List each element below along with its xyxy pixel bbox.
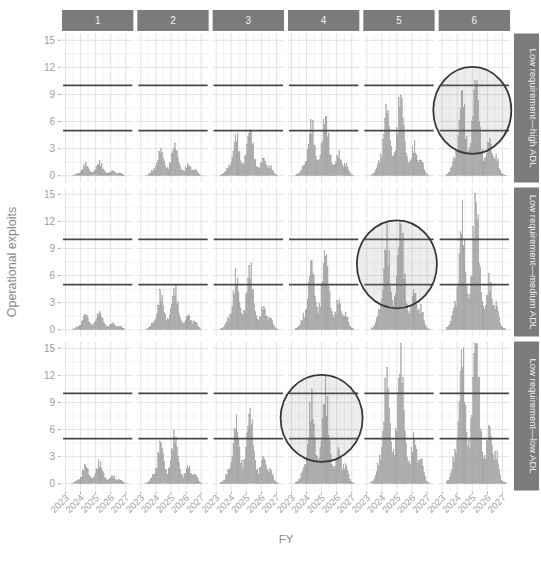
panel-r1c2 xyxy=(137,34,208,183)
facet-row-strip-label: Low requirement—high ADL xyxy=(528,49,539,168)
y-tick-label: 6 xyxy=(49,116,55,127)
y-tick-label: 9 xyxy=(49,397,55,408)
y-tick-label: 3 xyxy=(49,143,55,154)
y-tick-label: 15 xyxy=(44,35,56,46)
y-tick-label: 15 xyxy=(44,343,56,354)
gridlines-minor xyxy=(62,342,133,491)
x-tick-label: 2027 xyxy=(485,492,508,515)
density-area xyxy=(446,344,506,484)
highlight-circle-row1-col6 xyxy=(433,67,511,154)
y-axis-title: Operational exploits xyxy=(5,207,19,317)
facet-column-strip-label: 2 xyxy=(170,15,176,26)
density-area xyxy=(371,344,431,484)
y-tick-label: 3 xyxy=(49,451,55,462)
facet-column-strip-label: 6 xyxy=(472,15,478,26)
y-tick-label: 6 xyxy=(49,270,55,281)
y-tick-label: 0 xyxy=(49,324,55,335)
panel-r3c2 xyxy=(137,342,208,491)
panel-r2c1 xyxy=(62,188,133,337)
facet-column-strip-label: 3 xyxy=(246,15,252,26)
facet-column-strip-2: 2 xyxy=(137,10,208,31)
panel-r2c2 xyxy=(137,188,208,337)
chart-canvas: 123456Low requirement—high ADLLow requir… xyxy=(0,0,541,562)
facet-row-strip-3: Low requirement—low ADL xyxy=(514,342,539,491)
gridlines-minor xyxy=(62,34,133,183)
panel-r1c5 xyxy=(363,34,434,183)
facet-row-strip-label: Low requirement—medium ADL xyxy=(528,195,539,330)
density-area xyxy=(72,460,125,484)
y-tick-label: 9 xyxy=(49,89,55,100)
facet-column-strip-1: 1 xyxy=(62,10,133,31)
y-tick-label: 12 xyxy=(44,216,56,227)
x-axis-title: FY xyxy=(279,533,294,545)
y-tick-label: 12 xyxy=(44,62,56,73)
panel-r3c6 xyxy=(439,342,510,491)
panel-r2c4 xyxy=(288,188,359,337)
facet-row-strip-1: Low requirement—high ADL xyxy=(514,34,539,183)
y-tick-label: 9 xyxy=(49,243,55,254)
panel-r3c1 xyxy=(62,342,133,491)
facet-column-strip-label: 5 xyxy=(396,15,402,26)
panel-r2c3 xyxy=(213,188,284,337)
facet-column-strip-label: 1 xyxy=(95,15,101,26)
y-tick-label: 15 xyxy=(44,189,56,200)
facet-column-strip-label: 4 xyxy=(321,15,327,26)
panel-r3c3 xyxy=(213,342,284,491)
panel-r3c5 xyxy=(363,342,434,491)
facet-column-strip-5: 5 xyxy=(363,10,434,31)
faceted-density-figure: 123456Low requirement—high ADLLow requir… xyxy=(0,0,541,562)
panel-r2c6 xyxy=(439,188,510,337)
density-area xyxy=(220,408,279,484)
highlight-circle-row2-col5 xyxy=(357,220,437,308)
panel-r1c4 xyxy=(288,34,359,183)
y-tick-label: 3 xyxy=(49,297,55,308)
facet-column-strip-6: 6 xyxy=(439,10,510,31)
y-tick-label: 0 xyxy=(49,170,55,181)
y-tick-label: 6 xyxy=(49,424,55,435)
panel-r1c1 xyxy=(62,34,133,183)
y-tick-label: 0 xyxy=(49,478,55,489)
facet-row-strip-label: Low requirement—low ADL xyxy=(528,358,539,473)
panel-r1c3 xyxy=(213,34,284,183)
facet-row-strip-2: Low requirement—medium ADL xyxy=(514,188,539,337)
y-tick-label: 12 xyxy=(44,370,56,381)
highlight-circle-row3-col4 xyxy=(281,375,363,462)
facet-column-strip-3: 3 xyxy=(213,10,284,31)
facet-column-strip-4: 4 xyxy=(288,10,359,31)
